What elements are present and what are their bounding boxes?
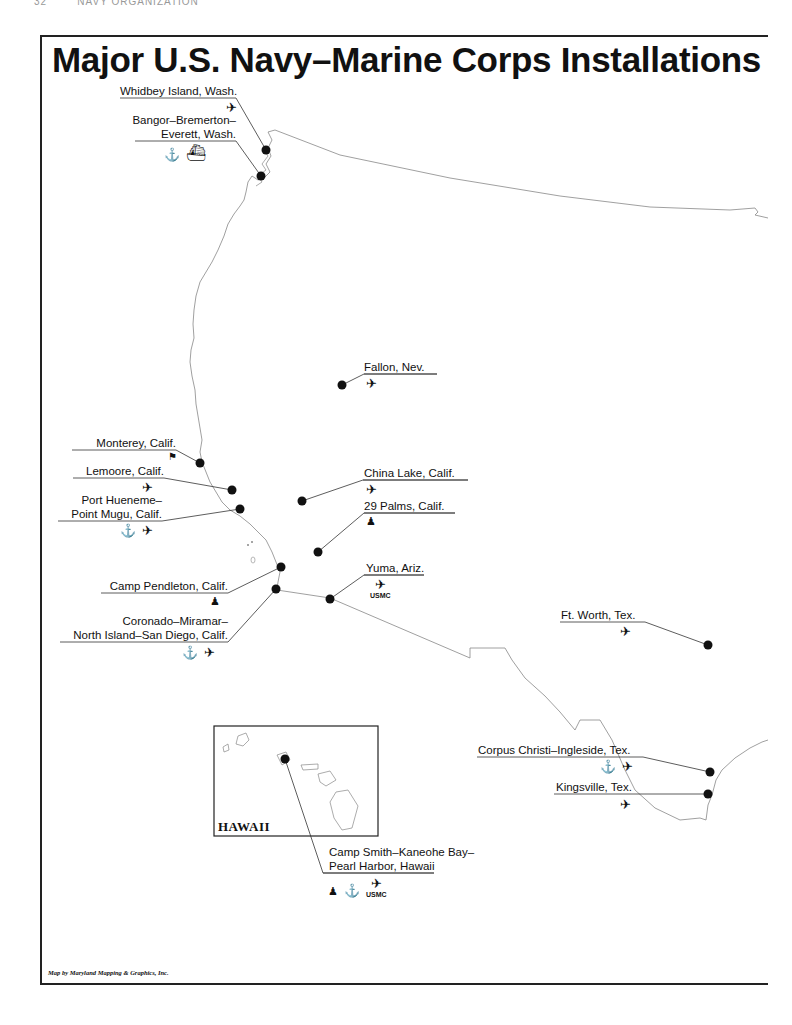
anchor-icon: ⚓ [164,147,180,162]
label-hawaii-line2: Pearl Harbor, Hawaii [329,859,434,873]
icons-kingsville: ✈ [620,797,631,812]
airplane-usmc-icon: ✈USMC [370,577,391,599]
airplane-usmc-icon: ✈USMC [366,876,387,898]
label-hawaii-line1: Camp Smith–Kaneohe Bay– [329,845,474,859]
island-kauai [236,733,249,746]
airplane-icon: ✈ [622,759,633,774]
label-whidbey: Whidbey Island, Wash. [120,84,236,98]
icons-ft-worth: ✈ [620,624,631,639]
icons-hawaii: ♟⚓✈USMC [328,876,387,898]
label-san-diego-line2: North Island–San Diego, Calif. [40,628,228,642]
island-niihau [223,744,229,752]
icons-port-hueneme: ⚓✈ [120,523,153,538]
airplane-icon: ✈ [366,482,377,497]
label-china-lake: China Lake, Calif. [364,466,455,480]
pacific-coastline [190,132,280,590]
label-corpus-christi: Corpus Christi–Ingleside, Tex. [478,743,631,757]
icons-fallon: ✈ [366,376,377,391]
label-bangor-line1: Bangor–Bremerton– [100,113,236,127]
airplane-icon: ✈ [204,645,215,660]
canada-border [268,130,768,218]
label-lemoore: Lemoore, Calif. [60,464,164,478]
map-credit: Map by Maryland Mapping & Graphics, Inc. [48,969,169,976]
icons-corpus-christi: ⚓✈ [600,759,633,774]
icons-yuma: ✈USMC [370,577,391,599]
airplane-icon: ✈ [366,376,377,391]
label-29-palms: 29 Palms, Calif. [364,499,445,513]
label-san-diego-line1: Coronado–Miramar– [40,614,228,628]
label-ft-worth: Ft. Worth, Tex. [561,608,635,622]
label-monterey: Monterey, Calif. [60,436,176,450]
airplane-icon: ✈ [620,624,631,639]
label-port-hueneme-line2: Point Mugu, Calif. [40,507,162,521]
label-yuma: Yuma, Ariz. [366,561,424,575]
icons-san-diego: ⚓✈ [182,645,215,660]
label-camp-pendleton: Camp Pendleton, Calif. [80,579,228,593]
anchor-icon: ⚓ [600,759,616,774]
ship-icon: ⛴ [186,143,206,162]
anchor-icon: ⚓ [120,523,136,538]
island-big-island [330,790,358,830]
mexico-border [277,590,706,820]
anchor-icon: ⚓ [344,883,360,898]
installation-dots [196,146,715,799]
airplane-icon: ✈ [142,523,153,538]
airplane-icon: ✈ [620,797,631,812]
label-kingsville: Kingsville, Tex. [556,780,632,794]
puget-sound [256,150,268,186]
icons-bangor: ⚓⛴ [164,143,206,162]
marine-icon: ♟ [366,515,376,528]
anchor-icon: ⚓ [182,645,198,660]
gulf-coastline [706,740,768,820]
icons-china-lake: ✈ [366,482,377,497]
marine-icon: ♟ [328,885,338,898]
school-flag-icon: ⚑ [168,451,177,462]
icons-29-palms: ♟ [366,515,376,528]
icons-camp-pendleton: ♟ [210,595,220,608]
island-maui [318,771,336,786]
icons-monterey: ⚑ [168,451,177,462]
island-molokai [301,764,318,770]
hawaii-inset-label: HAWAII [218,819,270,835]
label-bangor-line2: Everett, Wash. [100,127,236,141]
label-port-hueneme-line1: Port Hueneme– [40,493,162,507]
label-fallon: Fallon, Nev. [364,360,425,374]
marine-icon: ♟ [210,595,220,608]
